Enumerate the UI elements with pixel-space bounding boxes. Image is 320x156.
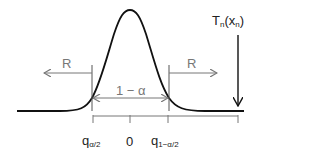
statistic-label: Tn(xn) [212, 13, 244, 29]
left-rejection-label: R [62, 56, 71, 71]
tick-label-zero: 0 [126, 134, 133, 149]
tick-label-q-one-minus-alpha-half: q1−α/2 [151, 133, 179, 149]
tick-label-q-alpha-half: qα/2 [82, 133, 101, 149]
right-rejection-label: R [187, 56, 196, 71]
acceptance-label: 1 − α [116, 83, 146, 98]
